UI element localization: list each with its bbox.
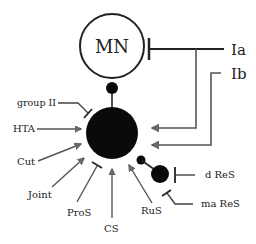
neural-circuit-diagram: MN Ia Ib group II HTA Cut Joint [0, 0, 256, 244]
motoneuron-node: MN [80, 14, 144, 78]
interneuron-node [86, 82, 138, 159]
joint-input: Joint [27, 158, 84, 200]
ia-input: Ia [149, 38, 246, 128]
dres-input: d ReS [175, 167, 235, 183]
group2-label: group II [17, 97, 56, 108]
group2-input: group II [17, 97, 92, 118]
rus-label: RuS [141, 205, 162, 216]
cs-input: CS [104, 169, 119, 234]
cs-label: CS [104, 223, 119, 234]
pros-label: ProS [67, 207, 92, 218]
ib-label: Ib [231, 65, 247, 83]
dres-label: d ReS [205, 169, 235, 180]
mares-label: ma ReS [201, 198, 240, 209]
pros-input: ProS [67, 162, 102, 218]
hta-input: HTA [13, 123, 81, 134]
motoneuron-label: MN [95, 36, 129, 57]
ia-label: Ia [231, 41, 246, 59]
cut-input: Cut [17, 144, 81, 167]
renshaw-node [137, 156, 170, 184]
ib-input: Ib [152, 65, 247, 145]
cut-label: Cut [17, 156, 35, 167]
hta-label: HTA [13, 123, 36, 134]
mares-input: ma ReS [162, 190, 240, 209]
joint-label: Joint [27, 189, 52, 200]
